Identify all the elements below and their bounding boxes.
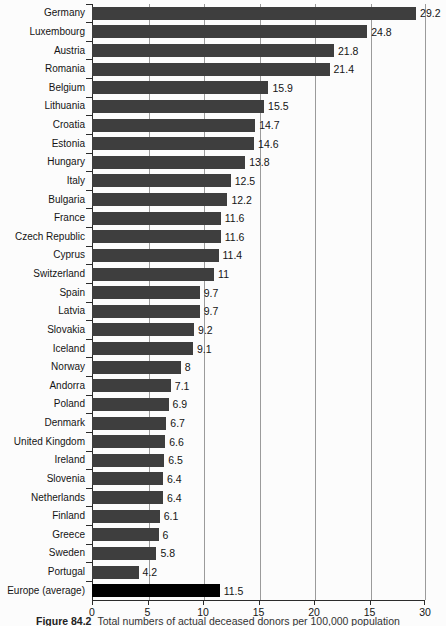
bar — [92, 156, 245, 169]
value-label: 6.9 — [173, 398, 188, 410]
bar — [92, 137, 254, 150]
bar-track: 9.1 — [92, 342, 425, 355]
bar — [92, 398, 169, 411]
category-tick — [86, 302, 92, 303]
bar-row: Sweden 5.8 — [0, 544, 446, 563]
category-tick — [86, 227, 92, 228]
bar — [92, 472, 163, 485]
bar-track: 7.1 — [92, 379, 425, 392]
bar-row: Slovenia 6.4 — [0, 470, 446, 489]
bar-track: 6.6 — [92, 435, 425, 448]
category-label: Croatia — [0, 120, 92, 130]
category-label: Denmark — [0, 418, 92, 428]
bar-row: Europe (average) 11.5 — [0, 581, 446, 600]
category-label: Estonia — [0, 139, 92, 149]
category-tick — [86, 115, 92, 116]
value-label: 12.5 — [235, 175, 255, 187]
category-label: Germany — [0, 8, 92, 18]
bar-row: Hungary 13.8 — [0, 153, 446, 172]
bar-row: Croatia 14.7 — [0, 116, 446, 135]
value-label: 7.1 — [175, 380, 190, 392]
category-tick — [86, 581, 92, 582]
bar-track: 6.7 — [92, 417, 425, 430]
bar — [92, 361, 181, 374]
category-label: Belgium — [0, 83, 92, 93]
category-tick — [86, 78, 92, 79]
category-label: Sweden — [0, 548, 92, 558]
category-tick — [86, 59, 92, 60]
bar-row: Greece 6 — [0, 526, 446, 545]
value-label: 6.4 — [167, 473, 182, 485]
category-tick — [86, 134, 92, 135]
bar — [92, 81, 268, 94]
bar — [92, 491, 163, 504]
category-label: Slovakia — [0, 325, 92, 335]
bar-row: Denmark 6.7 — [0, 414, 446, 433]
figure-label: Figure 84.2 — [36, 615, 91, 626]
category-tick — [86, 451, 92, 452]
bar-track: 9.7 — [92, 286, 425, 299]
bar — [92, 510, 160, 523]
category-tick — [86, 339, 92, 340]
value-label: 4.2 — [143, 566, 158, 578]
bar-row: Belgium 15.9 — [0, 79, 446, 98]
category-tick — [86, 469, 92, 470]
bar — [92, 249, 219, 262]
value-label: 21.8 — [338, 45, 358, 57]
category-label: Spain — [0, 288, 92, 298]
bar-track: 13.8 — [92, 156, 425, 169]
bar-row: United Kingdom 6.6 — [0, 432, 446, 451]
value-label: 6.7 — [170, 417, 185, 429]
bar-row: Spain 9.7 — [0, 283, 446, 302]
bar-row: Finland 6.1 — [0, 507, 446, 526]
bar — [92, 417, 166, 430]
bar-row: Latvia 9.7 — [0, 302, 446, 321]
category-tick — [86, 544, 92, 545]
category-label: Italy — [0, 176, 92, 186]
category-tick — [86, 97, 92, 98]
category-label: Lithuania — [0, 101, 92, 111]
category-tick — [86, 506, 92, 507]
bar-chart: Germany 29.2 Luxembourg 24.8 Austria 21.… — [0, 0, 446, 626]
x-axis-tick — [424, 601, 425, 605]
category-tick — [86, 283, 92, 284]
value-label: 9.2 — [198, 324, 213, 336]
category-label: Slovenia — [0, 474, 92, 484]
bar-track: 9.7 — [92, 305, 425, 318]
bar — [92, 323, 194, 336]
bar-track: 21.8 — [92, 44, 425, 57]
bar-row: Lithuania 15.5 — [0, 97, 446, 116]
category-tick — [86, 264, 92, 265]
value-label: 5.8 — [160, 547, 175, 559]
value-label: 6.4 — [167, 492, 182, 504]
category-label: Cyprus — [0, 250, 92, 260]
bar-track: 6.4 — [92, 472, 425, 485]
bar-track: 11.6 — [92, 212, 425, 225]
category-tick — [86, 171, 92, 172]
x-axis-tick — [259, 601, 260, 605]
bar-track: 11.5 — [92, 584, 425, 597]
bar-row: Switzerland 11 — [0, 265, 446, 284]
value-label: 29.2 — [420, 7, 440, 19]
category-label: Finland — [0, 511, 92, 521]
bar-row: Germany 29.2 — [0, 4, 446, 23]
x-axis-tick — [314, 601, 315, 605]
bar-row: Andorra 7.1 — [0, 377, 446, 396]
value-label: 8 — [185, 361, 191, 373]
category-label: Romania — [0, 64, 92, 74]
bar — [92, 342, 193, 355]
bar-track: 6.9 — [92, 398, 425, 411]
x-axis-tick — [148, 601, 149, 605]
bar-row: Iceland 9.1 — [0, 339, 446, 358]
category-label: Ireland — [0, 455, 92, 465]
bar-track: 9.2 — [92, 323, 425, 336]
bar — [92, 268, 214, 281]
value-label: 24.8 — [371, 26, 391, 38]
bar-row: Italy 12.5 — [0, 172, 446, 191]
category-label: Luxembourg — [0, 27, 92, 37]
category-tick — [86, 395, 92, 396]
bar — [92, 193, 227, 206]
bar-row: Netherlands 6.4 — [0, 488, 446, 507]
category-label: Norway — [0, 362, 92, 372]
bar-track: 11 — [92, 268, 425, 281]
